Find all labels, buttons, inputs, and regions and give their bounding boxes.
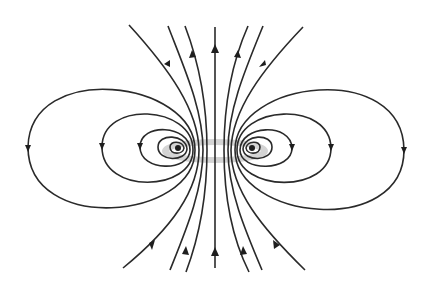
left-closed-loops [28,89,195,208]
arrow-up-icon [259,60,266,67]
arrow-down-icon [137,143,143,150]
arrow-down-icon [289,144,295,151]
arrow-up-icon [211,44,219,53]
arrow-down-icon [328,144,334,151]
arrow-down-icon [99,143,105,150]
field-line-outer-right [231,27,305,270]
arrow-up-icon [240,246,247,255]
left-wire-crosssection [175,145,181,151]
magnetic-field-diagram [0,0,429,287]
field-line-outer-left [123,25,199,268]
open-field-lines [123,25,305,272]
arrow-down-icon [25,145,31,152]
arrow-up-icon [164,60,170,67]
arrow-up-icon [182,246,189,255]
arrow-down-icon [401,147,407,154]
arrow-up-icon [149,240,155,250]
direction-arrows [25,44,407,256]
arrow-up-icon [211,247,219,256]
arrow-up-icon [234,50,241,58]
right-wire-crosssection [249,145,255,151]
